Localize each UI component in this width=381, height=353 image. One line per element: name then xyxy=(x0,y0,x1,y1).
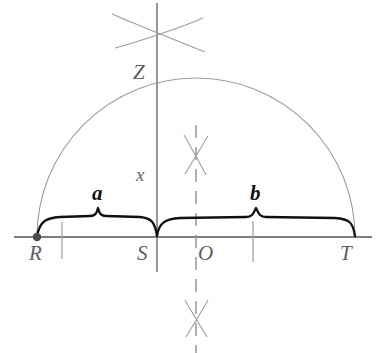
geometry-figure: R S O T Z x a b xyxy=(0,0,381,353)
altitude-label-x: x xyxy=(136,165,144,184)
upper-compass-arc-1 xyxy=(112,14,205,52)
point-label-z: Z xyxy=(133,62,145,83)
brace-segment-a xyxy=(37,208,157,236)
segment-label-b: b xyxy=(250,183,261,204)
figure-canvas xyxy=(0,0,381,353)
point-label-r: R xyxy=(29,243,42,264)
middle-compass-arc-1 xyxy=(184,135,206,175)
segment-label-a: a xyxy=(92,183,103,204)
brace-segment-b xyxy=(157,208,355,236)
point-label-t: T xyxy=(340,243,352,264)
point-dot-r xyxy=(33,233,41,241)
lower-compass-arc-2 xyxy=(186,300,208,337)
point-label-o: O xyxy=(198,243,213,264)
point-label-s: S xyxy=(137,243,148,264)
